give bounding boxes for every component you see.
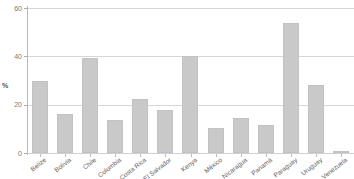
bar-slot [329, 8, 354, 153]
bar-slot [153, 8, 178, 153]
bar-slot [253, 8, 278, 153]
bar[interactable] [57, 114, 73, 153]
x-tick-label: Belize [29, 156, 47, 172]
bar[interactable] [182, 56, 198, 153]
y-tick-label: 0 [0, 150, 22, 157]
x-axis-labels: BelizeBoliviaChileColombiaCosta RicaEl S… [27, 154, 354, 179]
bar-slot [178, 8, 203, 153]
bars-layer [27, 8, 354, 153]
bar-slot [77, 8, 102, 153]
bar[interactable] [258, 125, 274, 153]
y-axis-title: % [2, 82, 8, 89]
bar-slot [52, 8, 77, 153]
x-tick-label: Bolivia [53, 156, 72, 173]
bar-slot [27, 8, 52, 153]
y-tick-label: 40 [0, 53, 22, 60]
x-tick-label: México [202, 156, 223, 174]
bar-slot [228, 8, 253, 153]
x-tick-label: Kenya [179, 156, 198, 173]
x-tick-label: Venezuela [320, 156, 348, 179]
bar[interactable] [82, 58, 98, 153]
bar-slot [279, 8, 304, 153]
bar-slot [203, 8, 228, 153]
bar[interactable] [32, 81, 48, 153]
x-tick-label: Panamá [250, 156, 273, 176]
bar-slot [128, 8, 153, 153]
bar-slot [304, 8, 329, 153]
bar[interactable] [308, 85, 324, 153]
bar[interactable] [132, 99, 148, 153]
bar[interactable] [107, 120, 123, 153]
x-tick-label: Chile [81, 156, 97, 171]
bar-chart: 0204060 % BelizeBoliviaChileColombiaCost… [0, 0, 354, 179]
bar-slot [102, 8, 127, 153]
y-tick-label: 60 [0, 5, 22, 12]
bar[interactable] [283, 23, 299, 153]
bar[interactable] [157, 110, 173, 153]
bar[interactable] [233, 118, 249, 153]
x-tick-label: Nicaragua [220, 156, 248, 179]
bar[interactable] [208, 128, 224, 153]
bar[interactable] [333, 151, 349, 153]
y-tick-label: 20 [0, 101, 22, 108]
x-tick-label: Paraguay [272, 156, 298, 179]
